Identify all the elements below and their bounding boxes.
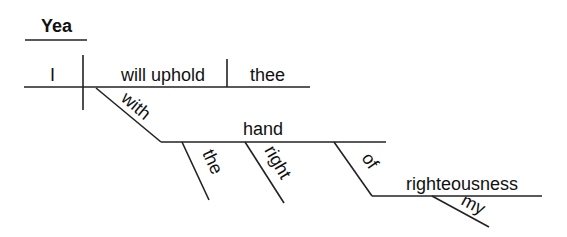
interjection-word: Yea (41, 16, 73, 36)
the-word: the (198, 146, 227, 177)
right-word: right (261, 142, 296, 182)
righteousness-word: righteousness (406, 174, 518, 194)
my-word: my (458, 190, 489, 219)
object-word: thee (250, 65, 285, 85)
of-word: of (358, 149, 384, 174)
verb-word: will uphold (120, 65, 205, 85)
hand-word: hand (243, 119, 283, 139)
sentence-diagram: Yea I will uphold thee with hand the rig… (0, 0, 567, 237)
subject-word: I (50, 65, 55, 85)
with-word: with (117, 87, 155, 124)
